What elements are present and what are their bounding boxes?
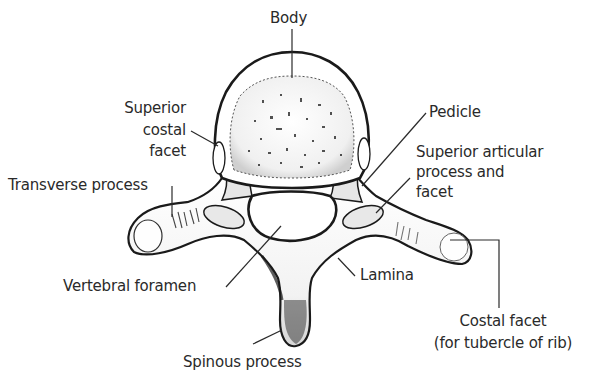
label-pedicle: Pedicle [429,104,481,121]
label-lamina: Lamina [360,267,414,284]
label-costal-facet-line1: Costal facet [418,313,588,330]
label-superior-articular-line1: Superior articular [416,144,543,161]
label-superior-articular-line2: process and [416,164,504,181]
label-superior-articular-line3: facet [416,184,453,201]
label-costal-facet-line2: (for tubercle of rib) [418,335,588,352]
vertebral-foramen [249,192,337,241]
label-body: Body [270,10,307,27]
label-transverse-process: Transverse process [8,177,148,194]
label-superior-costal-facet-line1: Superior [108,100,186,117]
label-superior-costal-facet-line2: costal [108,122,186,139]
label-spinous-process: Spinous process [183,354,302,371]
label-vertebral-foramen: Vertebral foramen [63,278,196,295]
vertebra-diagram: Body Superior costal facet Pedicle Super… [0,0,591,384]
label-superior-costal-facet-line3: facet [108,143,186,160]
